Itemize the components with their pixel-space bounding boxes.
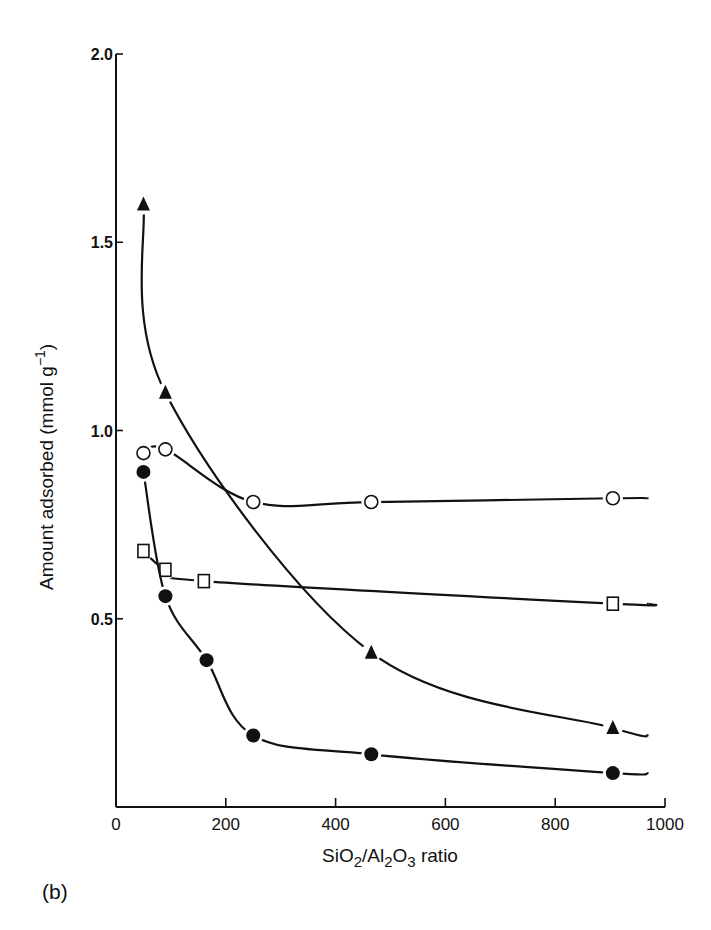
series-curve-filled-triangle bbox=[142, 205, 649, 737]
filled-circle-marker-icon bbox=[136, 465, 150, 479]
x-tick-label: 1000 bbox=[646, 815, 684, 834]
y-axis-label-close: ) bbox=[36, 344, 57, 350]
y-axis-label: Amount adsorbed (mmol g−1) bbox=[32, 344, 58, 590]
panel-label: (b) bbox=[42, 880, 68, 904]
open-square-marker-icon bbox=[607, 597, 618, 610]
y-axis-label-text: Amount adsorbed (mmol g bbox=[36, 366, 57, 590]
xlabel-part: /Al bbox=[362, 845, 384, 866]
series-curve-open-circle bbox=[143, 446, 648, 506]
x-tick-label: 800 bbox=[541, 815, 569, 834]
xlabel-part: O bbox=[393, 845, 408, 866]
open-square-marker-icon bbox=[138, 544, 149, 557]
filled-circle-marker-icon bbox=[606, 766, 620, 780]
y-tick-label: 1.0 bbox=[91, 423, 113, 440]
filled-circle-marker-icon bbox=[158, 589, 172, 603]
filled-circle-marker-icon bbox=[246, 728, 260, 742]
open-circle-marker-icon bbox=[606, 492, 619, 505]
x-axis-label: SiO2/Al2O3 ratio bbox=[322, 845, 458, 870]
x-tick-label: 400 bbox=[321, 815, 349, 834]
series-curve-filled-circle bbox=[143, 472, 648, 775]
open-circle-marker-icon bbox=[365, 496, 378, 509]
open-circle-marker-icon bbox=[247, 496, 260, 509]
y-axis-label-exponent: −1 bbox=[32, 350, 48, 366]
xlabel-part: ratio bbox=[416, 845, 458, 866]
open-square-marker-icon bbox=[160, 563, 171, 576]
chart-canvas: 020040060080010000.51.01.52.0 bbox=[0, 0, 711, 930]
filled-circle-marker-icon bbox=[200, 653, 214, 667]
y-tick-label: 0.5 bbox=[91, 611, 113, 628]
y-tick-label: 1.5 bbox=[91, 234, 113, 251]
xlabel-part: SiO bbox=[322, 845, 354, 866]
xlabel-sub: 3 bbox=[407, 853, 415, 870]
open-square-marker-icon bbox=[198, 575, 209, 588]
open-circle-marker-icon bbox=[159, 443, 172, 456]
open-circle-marker-icon bbox=[137, 447, 150, 460]
filled-circle-marker-icon bbox=[364, 747, 378, 761]
xlabel-sub: 2 bbox=[384, 853, 392, 870]
xlabel-sub: 2 bbox=[354, 853, 362, 870]
y-tick-label: 2.0 bbox=[91, 46, 113, 63]
series-curve-open-square bbox=[143, 551, 656, 605]
x-tick-label: 600 bbox=[431, 815, 459, 834]
x-tick-label: 200 bbox=[212, 815, 240, 834]
x-tick-label: 0 bbox=[111, 815, 120, 834]
